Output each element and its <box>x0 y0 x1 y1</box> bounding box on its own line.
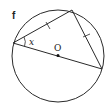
part-label: f <box>12 10 16 21</box>
chord-ab <box>13 10 72 43</box>
angle-label: x <box>29 37 34 47</box>
center-label: O <box>54 43 61 53</box>
center-point <box>57 54 60 57</box>
chord-bc <box>72 10 102 69</box>
angle-arc <box>24 37 25 46</box>
circle-geometry-diagram: f x O <box>0 0 110 107</box>
